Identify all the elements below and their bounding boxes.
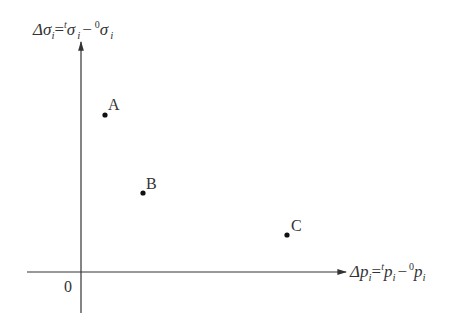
origin-label: 0 bbox=[64, 278, 72, 295]
point-c-marker bbox=[284, 232, 289, 237]
point-a: A bbox=[102, 96, 120, 118]
y-axis-label: Δσi=tσi−0σi bbox=[32, 19, 113, 41]
point-b-marker bbox=[140, 190, 145, 195]
point-a-label: A bbox=[108, 96, 120, 113]
point-c-label: C bbox=[291, 217, 302, 234]
diagram-canvas: Δσi=tσi−0σi Δpi=tpi−0pi 0 A B C bbox=[0, 0, 474, 332]
point-c: C bbox=[284, 217, 301, 238]
x-axis-label: Δpi=tpi−0pi bbox=[349, 261, 426, 283]
point-b-label: B bbox=[146, 175, 157, 192]
point-b: B bbox=[140, 175, 156, 196]
point-a-marker bbox=[102, 112, 107, 117]
